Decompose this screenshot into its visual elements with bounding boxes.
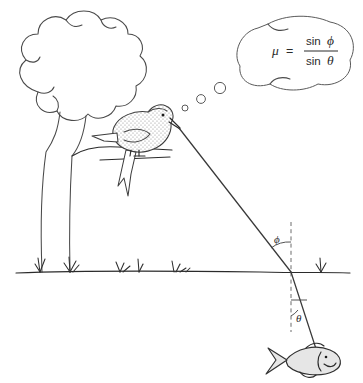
grass-tuft-5 <box>172 261 190 272</box>
tree-canopy-notch-3 <box>66 20 82 26</box>
tree-canopy-notch-5 <box>53 96 58 111</box>
angle-label-theta: θ <box>296 312 302 324</box>
thought-bubble-outline <box>237 16 353 90</box>
grass-tuft-1 <box>35 258 45 272</box>
formula-denominator-fn: sin <box>306 55 321 67</box>
tree-canopy-notch-2 <box>38 87 54 93</box>
grass-tuft-3 <box>116 262 130 272</box>
fish <box>266 343 340 377</box>
incident-ray <box>179 128 291 272</box>
bird-tail <box>118 150 136 196</box>
thought-dots <box>182 82 226 111</box>
grass-tuft-4 <box>138 259 143 272</box>
thought-dot-medium <box>197 95 206 104</box>
snells-law-thought-bubble: μ = sin ϕ sin θ <box>237 16 353 90</box>
kingfisher-bird <box>92 105 180 196</box>
tree-canopy-notch-4 <box>101 20 116 28</box>
formula-mu: μ <box>271 43 279 58</box>
grass-tuft-2 <box>64 257 79 272</box>
tree-trunk-right <box>70 116 86 272</box>
formula-denominator-var: θ <box>327 53 334 68</box>
tree-trunk-left <box>41 112 60 272</box>
formula-numerator-var: ϕ <box>327 33 334 48</box>
branch <box>72 147 172 160</box>
bird-body <box>113 105 173 152</box>
bird-wingtip <box>92 133 118 142</box>
refraction-illustration: μ = sin ϕ sin θ ϕ θ <box>0 0 363 383</box>
formula-numerator-fn: sin <box>306 35 321 47</box>
fish-body <box>286 347 340 375</box>
fish-eye <box>325 356 328 359</box>
grass-tuft-6 <box>316 258 326 272</box>
angle-label-phi: ϕ <box>274 233 280 245</box>
ground-water-surface-line <box>16 271 350 273</box>
fish-tail <box>266 348 287 374</box>
grass-tufts <box>35 257 326 272</box>
tree-canopy-notch-1 <box>26 57 40 62</box>
thought-dot-large <box>214 82 225 93</box>
bird-eye <box>162 114 165 117</box>
thought-dot-small <box>182 105 188 111</box>
branch-line <box>72 147 172 156</box>
tree-canopy <box>20 11 147 120</box>
formula-equals: = <box>286 44 293 58</box>
